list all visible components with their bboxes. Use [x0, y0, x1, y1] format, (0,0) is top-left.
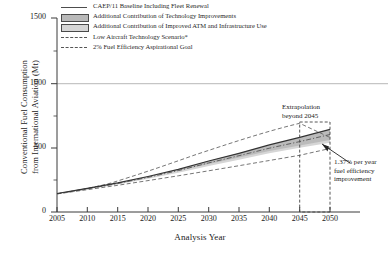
- legend-label-low-tech: Low Aircraft Technology Scenario*: [93, 33, 188, 41]
- legend-marker-dash: [61, 47, 87, 48]
- legend-marker-line: [61, 7, 87, 8]
- legend-marker-box-light: [61, 24, 89, 32]
- x-tick-label-2045: 2045: [285, 214, 315, 223]
- annotation-efficiency-line1: 1.37% per year: [334, 158, 377, 166]
- legend-marker-dash-dot: [61, 37, 87, 38]
- y-tick-label-1000: 1000: [16, 78, 46, 87]
- legend-marker-box-dark: [61, 14, 89, 22]
- y-tick-label-1500: 1500: [16, 12, 46, 21]
- legend-label-technology: Additional Contribution of Technology Im…: [93, 12, 236, 20]
- x-tick-label-2035: 2035: [224, 214, 254, 223]
- x-tick-label-2005: 2005: [42, 214, 72, 223]
- x-ticks: [57, 207, 330, 212]
- legend-label-baseline: CAEP/11 Baseline Including Fleet Renewal: [93, 2, 209, 10]
- band-technology-improvements: [57, 129, 330, 193]
- series-2pct-goal-line: [57, 123, 330, 194]
- y-tick-label-500: 500: [16, 142, 46, 151]
- legend-label-goal: 2% Fuel Efficiency Aspirational Goal: [93, 43, 193, 51]
- annotation-extrapolation-line1: Extrapolation: [282, 103, 320, 111]
- x-tick-label-2040: 2040: [254, 214, 284, 223]
- annotation-extrapolation: Extrapolation beyond 2045: [282, 103, 320, 120]
- annotation-extrapolation-line2: beyond 2045: [282, 112, 318, 120]
- x-tick-label-2010: 2010: [72, 214, 102, 223]
- x-tick-label-2025: 2025: [163, 214, 193, 223]
- x-tick-label-2015: 2015: [103, 214, 133, 223]
- x-axis-label: Analysis Year: [110, 232, 290, 242]
- chart-figure: Conventional Fuel Consumption from Inter…: [0, 0, 388, 253]
- x-tick-label-2020: 2020: [133, 214, 163, 223]
- y-axis-label: Conventional Fuel Consumption from Inter…: [19, 32, 41, 202]
- annotation-efficiency-line2: fuel efficiency: [334, 167, 375, 175]
- annotation-efficiency: 1.37% per year fuel efficiency improveme…: [334, 158, 388, 184]
- x-tick-label-2050: 2050: [315, 214, 345, 223]
- legend-label-atm: Additional Contribution of Improved ATM …: [93, 22, 267, 30]
- annotation-efficiency-line3: improvement: [334, 175, 371, 183]
- x-tick-label-2030: 2030: [194, 214, 224, 223]
- series-caep11-baseline: [57, 129, 330, 193]
